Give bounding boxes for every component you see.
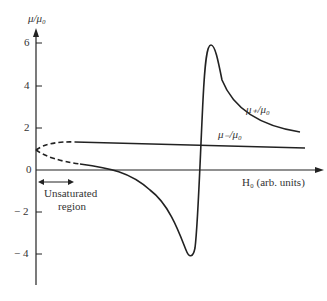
tick-6: 6 xyxy=(24,36,30,48)
tick-minus-4: − 4 xyxy=(14,247,28,259)
mu-minus-curve-unsaturated xyxy=(36,142,75,150)
tick-4: 4 xyxy=(24,79,30,91)
mu-plus-curve-unsaturated xyxy=(36,150,80,164)
x-axis-arrow-icon xyxy=(315,167,324,173)
y-axis-arrow-icon xyxy=(33,28,39,37)
arrow-left-icon xyxy=(38,179,44,185)
mu-plus-curve xyxy=(80,45,300,256)
arrow-right-icon xyxy=(68,179,74,185)
chart-plot xyxy=(0,0,327,301)
mu-minus-label: μ₋/μ₀ xyxy=(218,128,242,141)
tick-minus-2: − 2 xyxy=(14,205,28,217)
x-axis-label: H₀ (arb. units) xyxy=(242,176,305,188)
tick-2: 2 xyxy=(24,121,30,133)
tick-0: 0 xyxy=(26,163,32,175)
unsaturated-label-1: Unsaturated xyxy=(44,187,97,199)
mu-minus-curve xyxy=(75,142,305,148)
unsaturated-label-2: region xyxy=(58,200,86,212)
y-axis-label: μ/μ₀ xyxy=(28,12,46,24)
mu-plus-label: μ₊/μ₀ xyxy=(246,103,270,116)
